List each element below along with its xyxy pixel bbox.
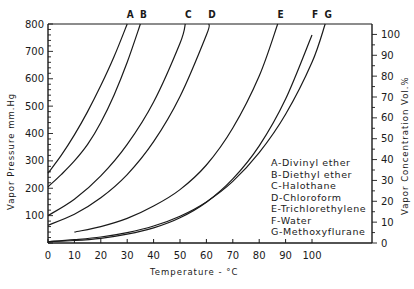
- y2-tick-label: 0: [381, 238, 387, 249]
- y-tick-label: 500: [25, 101, 44, 112]
- x-tick-label: 20: [94, 250, 107, 261]
- curve-labels: ABCDEFG: [127, 9, 332, 20]
- curve-divinyl-ether: [48, 24, 127, 173]
- x-tick-label: 90: [279, 250, 292, 261]
- curve-label-g: G: [325, 9, 332, 20]
- y2-tick-label: 20: [381, 196, 394, 207]
- x-tick-label: 70: [226, 250, 239, 261]
- legend-item: C-Halothane: [271, 180, 337, 191]
- legend-item: G-Methoxyflurane: [271, 226, 366, 237]
- curve-label-f: F: [312, 9, 318, 20]
- legend-item: B-Diethyl ether: [271, 169, 352, 180]
- legend-item: E-Trichlorethylene: [271, 203, 366, 214]
- x-tick-label: 0: [45, 250, 51, 261]
- y2-tick-label: 80: [381, 71, 394, 82]
- curve-chloroform: [48, 24, 209, 225]
- y-tick-label: 800: [25, 19, 44, 30]
- x-axis-title: Temperature - °C: [149, 267, 239, 277]
- curve-trichlorethylene: [74, 24, 277, 232]
- y-tick-label: 300: [25, 155, 44, 166]
- y-axis-title: Vapor Pressure mm.Hg: [6, 93, 16, 210]
- curve-label-a: A: [127, 9, 134, 20]
- legend-item: A-Divinyl ether: [271, 157, 351, 168]
- y-tick-label: 400: [25, 128, 44, 139]
- y-tick-label: 200: [25, 183, 44, 194]
- y2-tick-label: 30: [381, 175, 394, 186]
- x-tick-label: 40: [147, 250, 160, 261]
- y2-tick-label: 10: [381, 217, 394, 228]
- curve-diethyl-ether: [48, 24, 140, 187]
- legend-item: F-Water: [271, 215, 312, 226]
- y2-tick-label: 90: [381, 50, 394, 61]
- y2-tick-label: 100: [381, 29, 400, 40]
- x-tick-label: 60: [200, 250, 213, 261]
- x-tick-label: 80: [253, 250, 266, 261]
- x-tick-label: 50: [174, 250, 187, 261]
- curve-label-d: D: [208, 9, 215, 20]
- legend: A-Divinyl etherB-Diethyl etherC-Halothan…: [271, 157, 366, 237]
- curve-label-c: C: [185, 9, 192, 20]
- y2-tick-label: 70: [381, 92, 394, 103]
- y-tick-label: 600: [25, 73, 44, 84]
- curve-label-e: E: [278, 9, 284, 20]
- y2-tick-label: 50: [381, 133, 394, 144]
- y-tick-label: 100: [25, 210, 44, 221]
- y2-tick-label: 60: [381, 112, 394, 123]
- curve-halothane: [48, 24, 185, 216]
- y2-tick-label: 40: [381, 154, 394, 165]
- vapor-pressure-chart: 1002003004005006007008000102030405060708…: [0, 0, 414, 289]
- x-tick-label: 100: [302, 250, 321, 261]
- legend-item: D-Chloroform: [271, 192, 342, 203]
- y-tick-label: 700: [25, 46, 44, 57]
- x-tick-label: 10: [68, 250, 81, 261]
- x-tick-label: 30: [121, 250, 134, 261]
- axes: 1002003004005006007008000102030405060708…: [25, 19, 400, 262]
- curve-label-b: B: [140, 9, 147, 20]
- y2-axis-title: Vapor Concentration Vol.%: [400, 77, 410, 215]
